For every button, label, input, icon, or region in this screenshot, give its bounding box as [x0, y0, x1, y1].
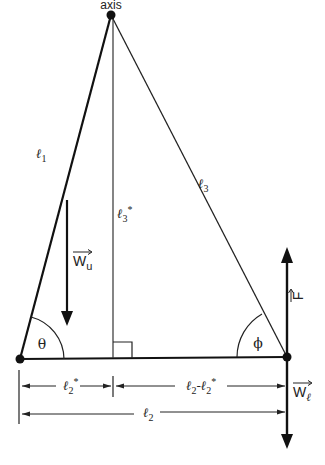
svg-text:Wu: Wu: [73, 253, 92, 272]
base-l2: [20, 357, 287, 359]
theta-arc: [31, 317, 64, 359]
svg-text:ℓ2*: ℓ2*: [63, 376, 78, 396]
svg-text:ℓ2: ℓ2: [143, 405, 153, 423]
label-w-u: Wu: [73, 250, 92, 273]
lever-triangle-diagram: axis ℓ1 ℓ3 ℓ3* Wu F Wℓ θ ϕ: [0, 0, 325, 465]
arrowhead-f-icon: [281, 247, 293, 263]
angle-theta-label: θ: [38, 336, 46, 352]
label-l1: ℓ1: [36, 146, 46, 164]
svg-text:Wℓ: Wℓ: [293, 384, 311, 403]
label-l3: ℓ3: [198, 176, 208, 194]
arrowhead-w-u-icon: [61, 311, 73, 326]
svg-text:ℓ2-ℓ2*: ℓ2-ℓ2*: [186, 376, 216, 396]
label-f: F: [289, 289, 307, 302]
label-w-l: Wℓ: [293, 381, 312, 404]
axis-label: axis: [100, 0, 121, 12]
right-angle-marker: [113, 342, 132, 358]
label-l3-star: ℓ3*: [117, 204, 132, 224]
side-l1: [20, 15, 111, 359]
left-vertex-point: [16, 355, 25, 364]
svg-text:F: F: [290, 292, 306, 301]
angle-phi-label: ϕ: [253, 335, 263, 351]
dimension-l2: ℓ2: [22, 405, 285, 423]
dimension-l2-minus-l2-star: ℓ2-ℓ2*: [116, 376, 285, 396]
dimension-l2-star: ℓ2*: [22, 376, 111, 396]
arrowhead-w-l-icon: [281, 434, 293, 449]
